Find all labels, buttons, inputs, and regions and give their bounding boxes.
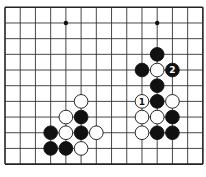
white-stone — [150, 110, 164, 124]
black-stone — [135, 63, 149, 77]
black-stone — [150, 126, 164, 140]
black-stone — [74, 110, 88, 124]
white-stone — [166, 95, 180, 109]
black-stone — [74, 126, 88, 140]
black-stone — [44, 142, 58, 156]
white-stone: 1 — [135, 95, 149, 109]
black-stone — [150, 79, 164, 93]
hoshi-point — [64, 21, 68, 25]
black-stone — [44, 126, 58, 140]
white-stone — [135, 126, 149, 140]
black-stone: 2 — [166, 63, 180, 77]
hoshi-point — [155, 21, 159, 25]
grid-lines — [5, 7, 203, 164]
white-stone — [150, 63, 164, 77]
white-stone — [135, 110, 149, 124]
white-stone — [74, 142, 88, 156]
black-stone — [59, 142, 73, 156]
black-stone — [166, 110, 180, 124]
black-stone — [150, 47, 164, 61]
move-number-label: 2 — [169, 65, 175, 75]
white-stone — [89, 126, 103, 140]
go-board: 21 — [0, 0, 206, 177]
white-stone — [59, 110, 73, 124]
white-stone — [74, 95, 88, 109]
black-stone — [166, 126, 180, 140]
move-number-label: 1 — [139, 97, 145, 107]
white-stone — [59, 126, 73, 140]
black-stone — [150, 95, 164, 109]
